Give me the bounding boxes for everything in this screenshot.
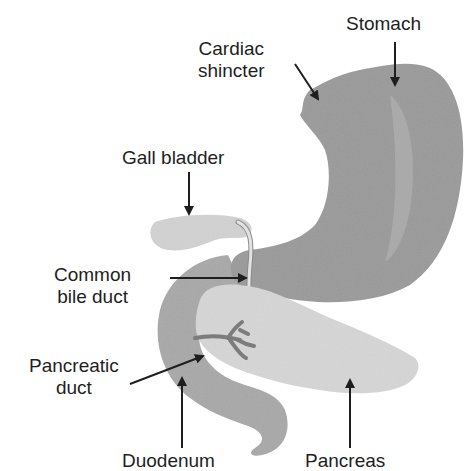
- label-pancreatic-duct: Pancreatic duct: [29, 355, 119, 399]
- label-cardiac-line1: Cardiac: [198, 38, 265, 60]
- label-stomach: Stomach: [346, 13, 421, 35]
- label-pancreas: Pancreas: [305, 450, 385, 471]
- label-duodenum: Duodenum: [122, 450, 215, 471]
- label-common-bile-line1: Common: [54, 264, 131, 286]
- label-cardiac-sphincter: Cardiac shincter: [198, 38, 265, 82]
- label-common-bile-line2: bile duct: [54, 286, 131, 308]
- label-pancreatic-line2: duct: [29, 377, 119, 399]
- label-common-bile-duct: Common bile duct: [54, 264, 131, 308]
- label-cardiac-line2: shincter: [198, 60, 265, 82]
- stomach-shape: [231, 64, 463, 302]
- cardiac-sphincter-arrow: [295, 64, 318, 99]
- label-pancreatic-line1: Pancreatic: [29, 355, 119, 377]
- label-gall-bladder: Gall bladder: [122, 147, 224, 169]
